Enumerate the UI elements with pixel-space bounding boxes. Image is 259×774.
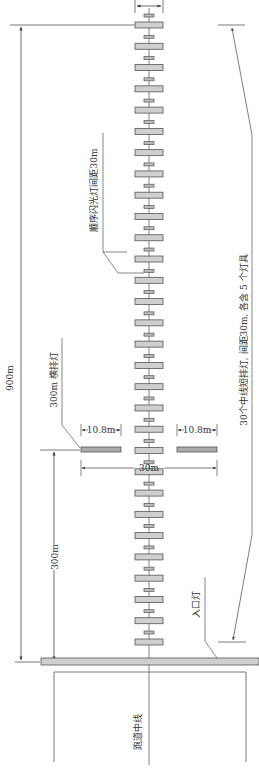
centerline-bar xyxy=(135,320,163,326)
flashing-light xyxy=(144,376,154,379)
centerline-bar xyxy=(135,426,163,432)
label-900m: 900m xyxy=(5,365,15,391)
centerline-bar xyxy=(135,533,163,539)
runway-outline: 跑道中线 xyxy=(54,672,246,762)
centerline-bar xyxy=(135,22,163,28)
centerline-bar xyxy=(135,596,163,602)
dimension-900m: 900m xyxy=(5,25,135,662)
flashing-light xyxy=(144,354,154,357)
centerline-bar xyxy=(135,384,163,390)
flashing-light xyxy=(144,248,154,251)
centerline-bars-callout: 30个中线短排灯, 间距30m, 各含 5 个灯具 xyxy=(218,25,252,642)
label-30m: 30m xyxy=(139,463,159,473)
centerline-bar xyxy=(135,150,163,156)
flashing-light xyxy=(144,588,154,591)
centerline-bar xyxy=(135,86,163,92)
flashing-light xyxy=(144,333,154,336)
centerline-bar xyxy=(135,235,163,241)
flashing-light xyxy=(144,567,154,570)
centerline-bar xyxy=(135,362,163,368)
flashing-light xyxy=(144,227,154,230)
flashing-light xyxy=(144,99,154,102)
centerline-bar xyxy=(135,639,163,645)
flashing-light xyxy=(144,546,154,549)
flashing-light xyxy=(144,57,154,60)
crossbar-300m: 300m 横排灯 10.8m 10.8m 30m xyxy=(48,338,217,476)
flashing-light xyxy=(144,525,154,528)
flashing-light xyxy=(144,142,154,145)
centerline-bar xyxy=(135,490,163,496)
flashing-light xyxy=(144,291,154,294)
centerline-bar xyxy=(135,128,163,134)
flashing-light xyxy=(144,163,154,166)
label-centerline-bars: 30个中线短排灯, 间距30m, 各含 5 个灯具 xyxy=(238,254,249,425)
centerline-bar xyxy=(135,554,163,560)
flashing-light xyxy=(144,631,154,634)
centerline-bar xyxy=(135,171,163,177)
flashing-light xyxy=(144,14,154,17)
flashing-light xyxy=(144,78,154,81)
flashing-light xyxy=(144,610,154,613)
label-10-8m-left: 10.8m xyxy=(87,425,116,435)
flashing-light xyxy=(144,184,154,187)
label-10-8m-right: 10.8m xyxy=(183,425,212,435)
centerline-bar xyxy=(135,213,163,219)
centerline-bar xyxy=(135,277,163,283)
label-crossbar: 300m 横排灯 xyxy=(48,352,59,408)
flashing-light xyxy=(144,312,154,315)
centerline-bar xyxy=(135,618,163,624)
centerline-bar xyxy=(135,448,163,454)
centerline-bar xyxy=(135,65,163,71)
centerline-bar xyxy=(135,575,163,581)
centerline-bar xyxy=(135,405,163,411)
flashing-light xyxy=(144,482,154,485)
flashing-light xyxy=(144,503,154,506)
centerline-bar xyxy=(135,256,163,262)
label-threshold: 入口灯 xyxy=(191,591,201,618)
flashing-light xyxy=(144,397,154,400)
flashing-light xyxy=(144,35,154,38)
centerline-bar xyxy=(135,192,163,198)
flashing-light xyxy=(144,418,154,421)
centerline-bar xyxy=(135,43,163,49)
centerline-bar xyxy=(135,299,163,305)
centerline-bar xyxy=(135,107,163,113)
approach-lighting-diagram: 900m 300m 300m 横排灯 10.8m 10.8m 30m xyxy=(0,0,259,774)
label-runway-centerline: 跑道中线 xyxy=(132,714,143,750)
dimension-300m: 300m xyxy=(40,450,80,660)
flashing-light xyxy=(144,269,154,272)
flashing-light xyxy=(144,205,154,208)
centerline-bar xyxy=(135,341,163,347)
label-300m: 300m xyxy=(50,544,60,570)
flashing-light xyxy=(144,120,154,123)
label-flashing-lights: 顺序闪光灯间距30m xyxy=(88,148,99,231)
flashing-light xyxy=(144,440,154,443)
centerline-bar xyxy=(135,511,163,517)
